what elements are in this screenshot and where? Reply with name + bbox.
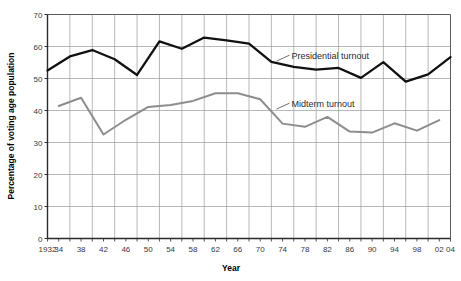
x-tick-label: 98	[412, 245, 421, 254]
x-tick-label: 58	[189, 245, 198, 254]
y-axis-tick-labels: 010203040506070	[34, 11, 43, 244]
x-tick-label: 78	[301, 245, 310, 254]
y-tick-label: 50	[34, 75, 43, 84]
x-tick-label: 54	[166, 245, 175, 254]
y-tick-label: 60	[34, 43, 43, 52]
x-tick-label: 42	[99, 245, 108, 254]
annotation-leader-1	[277, 103, 290, 109]
x-axis-title: Year	[222, 263, 241, 273]
series-annotations: Presidential turnoutMidterm turnout	[277, 51, 370, 109]
x-tick-label: 04	[446, 245, 455, 254]
x-tick-label: 86	[345, 245, 354, 254]
y-tick-label: 70	[34, 11, 43, 20]
x-tick-label: 38	[77, 245, 86, 254]
y-tick-label: 10	[34, 203, 43, 212]
annotation-label-1: Midterm turnout	[292, 99, 356, 109]
y-tick-label: 20	[34, 171, 43, 180]
x-tick-label: 02	[435, 245, 444, 254]
x-tick-label: 90	[368, 245, 377, 254]
y-tick-label: 30	[34, 139, 43, 148]
x-tick-label: 74	[278, 245, 287, 254]
x-tick-label: 82	[323, 245, 332, 254]
annotation-label-0: Presidential turnout	[292, 51, 370, 61]
x-tick-label: 50	[144, 245, 153, 254]
x-tick-label: 66	[233, 245, 242, 254]
x-tick-label: 70	[256, 245, 265, 254]
chart-figure: 010203040506070 193234384246505458626670…	[0, 0, 461, 281]
line-chart: 010203040506070 193234384246505458626670…	[0, 0, 461, 281]
plot-frame	[45, 15, 451, 242]
annotation-leader-0	[277, 55, 290, 61]
y-tick-label: 40	[34, 107, 43, 116]
y-axis-title: Percentage of voting age population	[6, 53, 16, 200]
x-tick-label: 94	[390, 245, 399, 254]
x-tick-label: 34	[54, 245, 63, 254]
x-axis-tick-labels: 1932343842465054586266707478828690949802…	[39, 245, 456, 254]
x-tick-label: 62	[211, 245, 220, 254]
y-tick-label: 0	[38, 235, 43, 244]
x-tick-label: 46	[121, 245, 130, 254]
gridlines	[48, 15, 451, 239]
